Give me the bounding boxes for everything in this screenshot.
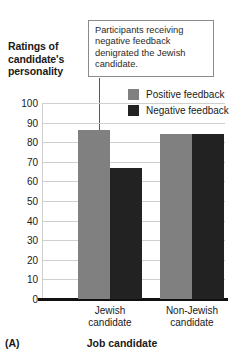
bar [110, 168, 142, 299]
x-axis-group-label-line: Non-Jewish [147, 305, 237, 317]
gridline [42, 123, 225, 124]
bar [78, 130, 110, 299]
y-axis-tick-label: 20 [8, 254, 38, 265]
y-axis-tick-label: 30 [8, 235, 38, 246]
x-axis-group-label-line: candidate [65, 317, 155, 329]
x-axis-group-label: Jewishcandidate [65, 305, 155, 329]
panel-label: (A) [5, 337, 20, 349]
legend-item-positive-feedback: Positive feedback [128, 86, 229, 102]
legend-label-positive-feedback: Positive feedback [146, 89, 224, 100]
x-axis-group-label: Non-Jewishcandidate [147, 305, 237, 329]
gridline [42, 103, 225, 104]
legend-swatch-positive-feedback [128, 89, 139, 100]
bar [160, 134, 192, 299]
y-axis-tick-label: 60 [8, 176, 38, 187]
y-axis-tick-label: 70 [8, 156, 38, 167]
bar [192, 134, 224, 299]
y-axis-tick-label: 90 [8, 117, 38, 128]
y-axis-tick-label: 100 [8, 98, 38, 109]
plot-area [42, 103, 225, 299]
y-axis-tick-label: 0 [8, 294, 38, 305]
y-axis-title: Ratings of candidate's personality [8, 40, 86, 78]
y-axis-tick-label: 10 [8, 274, 38, 285]
y-axis-tick-label: 80 [8, 137, 38, 148]
annotation-callout: Participants receiving negative feedback… [88, 20, 214, 77]
x-axis-group-label-line: Jewish [65, 305, 155, 317]
y-axis-tick-label: 50 [8, 196, 38, 207]
y-axis-tick-labels: 1009080706050403020100 [4, 103, 38, 299]
x-axis-title: Job candidate [0, 337, 244, 349]
x-axis-group-label-line: candidate [147, 317, 237, 329]
y-axis-tick-label: 40 [8, 215, 38, 226]
